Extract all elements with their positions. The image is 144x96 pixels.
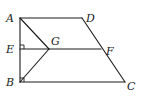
segment-GB: [20, 49, 49, 82]
label-C: C: [127, 80, 136, 93]
label-F: F: [105, 45, 114, 58]
segment-AG: [20, 18, 49, 49]
label-G: G: [51, 35, 60, 48]
label-D: D: [85, 12, 95, 25]
label-E: E: [5, 43, 14, 56]
right-angle-mark-E: [20, 45, 24, 49]
label-A: A: [5, 12, 14, 25]
label-B: B: [5, 76, 14, 89]
geometry-diagram: A D E G F B C: [0, 0, 144, 96]
segment-DC: [82, 18, 125, 82]
